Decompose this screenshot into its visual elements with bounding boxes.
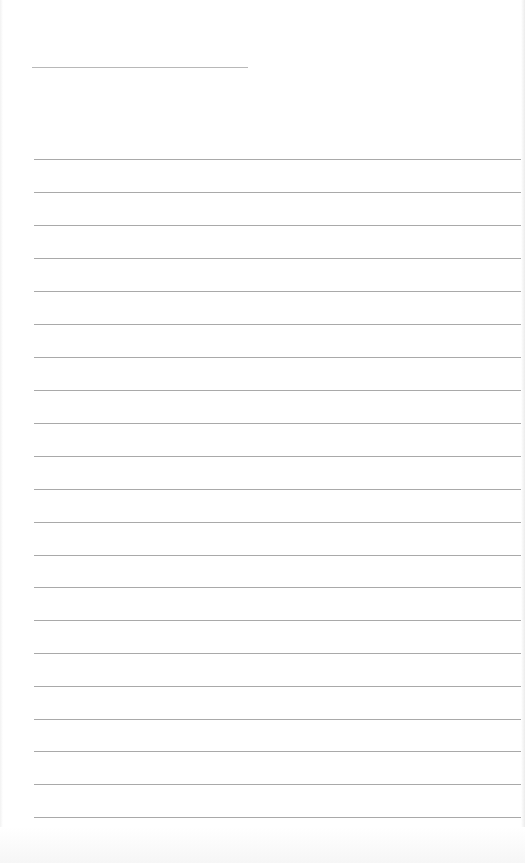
ruled-line <box>34 653 521 654</box>
ruled-line <box>34 522 521 523</box>
lined-paper-page <box>0 0 525 863</box>
ruled-line <box>34 784 521 785</box>
title-line <box>32 67 248 68</box>
ruled-line <box>34 357 521 358</box>
ruled-line <box>34 456 521 457</box>
ruled-line <box>34 620 521 621</box>
page-right-edge <box>521 0 525 863</box>
ruled-line <box>34 192 521 193</box>
page-bottom-edge <box>0 827 525 863</box>
ruled-line <box>34 390 521 391</box>
page-left-edge <box>0 0 3 863</box>
ruled-line <box>34 225 521 226</box>
ruled-line <box>34 686 521 687</box>
ruled-line <box>34 817 521 818</box>
ruled-line <box>34 423 521 424</box>
ruled-line <box>34 587 521 588</box>
ruled-line <box>34 324 521 325</box>
ruled-line <box>34 719 521 720</box>
ruled-line <box>34 489 521 490</box>
ruled-line <box>34 291 521 292</box>
ruled-line <box>34 159 521 160</box>
ruled-line <box>34 555 521 556</box>
ruled-line <box>34 751 521 752</box>
ruled-line <box>34 258 521 259</box>
